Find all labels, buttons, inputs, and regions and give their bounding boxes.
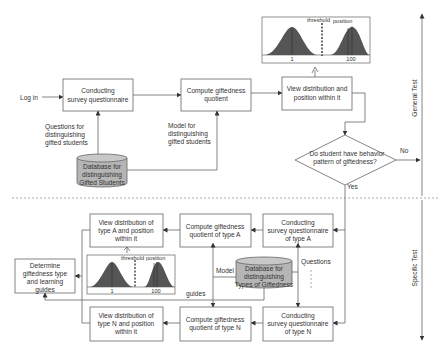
no-label: No xyxy=(400,147,409,154)
svg-text:100: 100 xyxy=(151,288,160,294)
svg-text:Gifted Students: Gifted Students xyxy=(79,179,125,186)
svg-text:Compute giftedness: Compute giftedness xyxy=(186,223,245,231)
view-distribution-type-n-box: View distribution of type N and position… xyxy=(90,307,163,341)
login-label: Log in xyxy=(20,94,38,102)
model-label-general: Model for distinguishing gifted students xyxy=(168,122,212,146)
svg-text:Model for: Model for xyxy=(168,122,196,129)
conduct-survey-box: Conducting survey questionnaire xyxy=(63,79,133,111)
svg-text:quotient: quotient xyxy=(204,95,228,103)
svg-text:gifted students: gifted students xyxy=(45,139,89,147)
svg-text:threshold: threshold xyxy=(307,17,330,23)
general-test-label: General Test xyxy=(411,79,418,116)
svg-text:distinguishing: distinguishing xyxy=(168,130,208,138)
svg-text:threshold: threshold xyxy=(121,255,144,261)
svg-text:survey questionnaire: survey questionnaire xyxy=(268,227,329,235)
svg-text:Determine: Determine xyxy=(30,262,61,269)
yes-label: Yes xyxy=(347,183,358,190)
svg-text:giftedness type: giftedness type xyxy=(23,270,68,278)
svg-text:Database for: Database for xyxy=(83,163,122,170)
svg-text:survey questionnaire: survey questionnaire xyxy=(268,320,329,328)
svg-text:position within it: position within it xyxy=(294,94,341,102)
svg-text:Conducting: Conducting xyxy=(281,312,315,320)
svg-text:pattern of giftedness?: pattern of giftedness? xyxy=(313,158,377,166)
svg-text:within it: within it xyxy=(114,328,137,335)
svg-text:quotient of type N: quotient of type N xyxy=(189,324,241,332)
conduct-survey-type-n-box: Conducting survey questionnaire of type … xyxy=(263,307,333,341)
svg-text:position: position xyxy=(146,255,165,261)
svg-text:Conducting: Conducting xyxy=(281,219,315,227)
svg-text:of type A: of type A xyxy=(285,235,311,243)
svg-text:distinguishing: distinguishing xyxy=(45,131,85,139)
svg-text:View distribution of: View distribution of xyxy=(98,312,153,319)
svg-text:distinguishing: distinguishing xyxy=(244,273,284,281)
svg-text:View distribution of: View distribution of xyxy=(98,219,153,226)
svg-text:within it: within it xyxy=(114,235,137,242)
distribution-chart-specific: threshold position 1 100 xyxy=(87,255,175,294)
determine-giftedness-box: Determine giftedness type and learning g… xyxy=(15,259,75,294)
specific-test-label: Specific Test xyxy=(411,249,419,286)
compute-quotient-type-n-box: Compute giftedness quotient of type N xyxy=(180,307,251,341)
svg-text:Compute giftedness: Compute giftedness xyxy=(186,316,245,324)
svg-text:type N and position: type N and position xyxy=(98,320,155,328)
flowchart-diagram: Log in Conducting survey questionnaire C… xyxy=(0,0,445,356)
conduct-survey-type-a-box: Conducting survey questionnaire of type … xyxy=(263,214,333,247)
view-distribution-box: View distribution and position within it xyxy=(282,77,352,110)
svg-text:Do student have behavior: Do student have behavior xyxy=(309,150,385,157)
svg-text:Questions for: Questions for xyxy=(45,123,85,131)
svg-text:and learning: and learning xyxy=(27,278,64,286)
svg-text:Conducting: Conducting xyxy=(81,87,115,95)
svg-text:Database for: Database for xyxy=(245,265,284,272)
svg-text:1: 1 xyxy=(110,288,113,294)
compute-quotient-type-a-box: Compute giftedness quotient of type A xyxy=(180,214,251,247)
guides-label: guides xyxy=(186,290,206,298)
database-gifted-students: Database for distinguishing Gifted Stude… xyxy=(77,154,127,187)
svg-text:distinguishing: distinguishing xyxy=(82,171,122,179)
svg-text:View distribution and: View distribution and xyxy=(287,85,348,92)
questions-label-general: Questions for distinguishing gifted stud… xyxy=(45,123,89,147)
svg-text:quotient of type A: quotient of type A xyxy=(190,231,242,239)
questions-label-specific: Questions xyxy=(301,258,331,266)
svg-text:Types of Giftedness: Types of Giftedness xyxy=(235,281,294,289)
svg-text:of type N: of type N xyxy=(285,328,312,336)
distribution-chart-general: threshold position 1 100 xyxy=(262,17,370,63)
svg-text:100: 100 xyxy=(346,56,355,62)
svg-text:position: position xyxy=(333,18,352,24)
svg-text:gifted students: gifted students xyxy=(168,138,212,146)
compute-quotient-box: Compute giftedness quotient xyxy=(181,79,251,111)
model-label-specific: Model xyxy=(216,267,234,274)
view-distribution-type-a-box: View distribution of type A and position… xyxy=(90,214,163,247)
svg-text:survey questionnaire: survey questionnaire xyxy=(68,96,129,104)
decision-diamond: Do student have behavior pattern of gift… xyxy=(295,135,396,185)
svg-text:Compute giftedness: Compute giftedness xyxy=(187,87,246,95)
svg-text:1: 1 xyxy=(290,56,293,62)
svg-text:guides: guides xyxy=(35,286,55,294)
database-types-of-giftedness: Database for distinguishing Types of Gif… xyxy=(235,257,294,289)
svg-text:type A and position: type A and position xyxy=(98,227,154,235)
